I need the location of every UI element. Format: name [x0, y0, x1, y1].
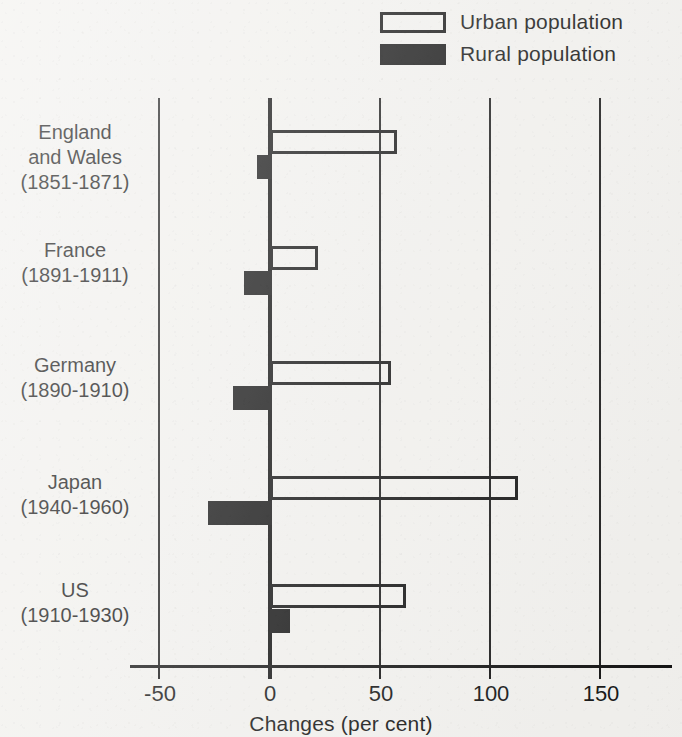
tick-mark-0 [268, 668, 272, 679]
plot-area: England and Wales (1851-1871)France (189… [0, 98, 682, 668]
legend-item-urban: Urban population [380, 6, 623, 38]
urban-bar [270, 584, 406, 608]
urban-bar [270, 476, 518, 500]
urban-swatch-icon [380, 12, 446, 33]
category-label: US (1910-1930) [0, 578, 150, 628]
urban-bar [270, 361, 391, 385]
rural-bar [257, 155, 272, 179]
legend-label-urban: Urban population [460, 10, 623, 34]
rural-bar [244, 271, 272, 295]
tick-label-150: 150 [583, 681, 620, 707]
gridline-100 [489, 98, 491, 668]
tick-label--50: -50 [144, 681, 176, 707]
category-label: Germany (1890-1910) [0, 353, 150, 403]
x-axis-title: Changes (per cent) [0, 712, 682, 736]
rural-swatch-icon [380, 44, 446, 65]
chart-legend: Urban population Rural population [380, 6, 623, 70]
tick-mark--50 [158, 668, 160, 679]
x-axis: -50 0 50 100 150 Changes (per cent) [0, 668, 682, 737]
category-label: France (1891-1911) [0, 238, 150, 288]
urban-bar [270, 130, 397, 154]
rural-bar [208, 501, 272, 525]
legend-item-rural: Rural population [380, 38, 623, 70]
tick-label-50: 50 [369, 681, 393, 707]
tick-mark-100 [489, 668, 491, 679]
tick-label-100: 100 [473, 681, 510, 707]
rural-bar [233, 386, 272, 410]
tick-label-0: 0 [264, 681, 276, 707]
gridline-150 [599, 98, 601, 668]
urban-bar [270, 246, 318, 270]
tick-mark-150 [599, 668, 601, 679]
legend-label-rural: Rural population [460, 42, 616, 66]
category-label: Japan (1940-1960) [0, 470, 150, 520]
gridline--50 [158, 98, 160, 668]
tick-mark-50 [379, 668, 381, 679]
category-label: England and Wales (1851-1871) [0, 120, 150, 195]
rural-bar [270, 609, 290, 633]
bar-chart: Urban population Rural population Englan… [0, 0, 682, 737]
